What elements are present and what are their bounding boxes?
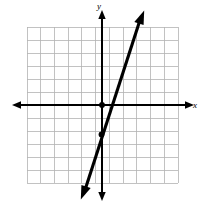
x-axis-arrow-left <box>12 101 21 108</box>
marked-point-origin <box>99 102 105 108</box>
x-axis-label: x <box>193 101 197 110</box>
coordinate-plane-svg <box>0 0 205 204</box>
line-arrow-bottom <box>81 185 91 200</box>
y-axis-arrow-down <box>98 192 105 201</box>
y-axis-arrow-up <box>98 10 105 19</box>
line-arrow-top <box>134 11 144 26</box>
coordinate-plane-figure: y x <box>0 0 205 204</box>
y-axis-label: y <box>97 2 101 11</box>
marked-point-second <box>99 132 105 138</box>
